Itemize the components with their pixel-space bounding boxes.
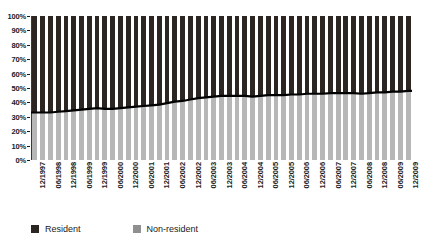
bar-segment-resident	[102, 16, 107, 109]
bar	[289, 16, 294, 160]
bar	[141, 16, 146, 160]
bar-segment-resident	[266, 16, 271, 95]
bar-segment-nonresident	[250, 97, 255, 160]
bar-segment-nonresident	[40, 112, 45, 160]
y-tick-mark	[27, 146, 30, 147]
bar-segment-nonresident	[79, 110, 84, 160]
bar	[211, 16, 216, 160]
bar	[157, 16, 162, 160]
bar-segment-resident	[172, 16, 177, 102]
bar	[312, 16, 317, 160]
y-tick-label: 10%	[12, 142, 26, 149]
x-tick-label: 06/2004	[240, 162, 249, 188]
bar	[48, 16, 53, 160]
x-tick-label: 12/2008	[380, 162, 389, 188]
bar-segment-nonresident	[110, 109, 115, 160]
y-tick-label: 0%	[16, 157, 26, 164]
bar	[375, 16, 380, 160]
bar	[118, 16, 123, 160]
bar	[87, 16, 92, 160]
bar-segment-nonresident	[64, 111, 69, 160]
bar	[320, 16, 325, 160]
y-tick-mark	[27, 160, 30, 161]
bar-segment-resident	[382, 16, 387, 92]
y-tick-label: 40%	[12, 99, 26, 106]
bar-segment-nonresident	[188, 100, 193, 160]
legend-label-nonresident: Non-resident	[147, 224, 199, 234]
bar-segment-nonresident	[204, 97, 209, 160]
bar-segment-resident	[188, 16, 193, 100]
bar-segment-resident	[235, 16, 240, 96]
bar-segment-resident	[320, 16, 325, 94]
bar-segment-resident	[274, 16, 279, 95]
bar-segment-resident	[406, 16, 411, 91]
bar	[188, 16, 193, 160]
bar	[196, 16, 201, 160]
bar	[32, 16, 37, 160]
bar-segment-nonresident	[351, 93, 356, 160]
bar-segment-resident	[95, 16, 100, 108]
bar-segment-nonresident	[102, 109, 107, 160]
bar-segment-nonresident	[196, 98, 201, 160]
bar	[266, 16, 271, 160]
bar-segment-resident	[165, 16, 170, 103]
bar-segment-resident	[336, 16, 341, 93]
bar-segment-nonresident	[211, 97, 216, 160]
bar	[242, 16, 247, 160]
bar	[79, 16, 84, 160]
plot-area	[31, 16, 412, 160]
bar	[367, 16, 372, 160]
x-tick-label: 12/2004	[256, 162, 265, 188]
bar	[406, 16, 411, 160]
x-tick-label: 12/2001	[162, 162, 171, 188]
x-tick-label: 06/2007	[334, 162, 343, 188]
bar-segment-resident	[328, 16, 333, 93]
bar	[40, 16, 45, 160]
bar	[274, 16, 279, 160]
bar-segment-resident	[305, 16, 310, 94]
bar-segment-nonresident	[32, 112, 37, 160]
bar-segment-resident	[180, 16, 185, 101]
bar-segment-nonresident	[297, 94, 302, 160]
bar	[305, 16, 310, 160]
bar-segment-nonresident	[71, 110, 76, 160]
bar	[258, 16, 263, 160]
x-tick-label: 06/2000	[116, 162, 125, 188]
y-tick-mark	[27, 131, 30, 132]
x-tick-label: 06/2002	[178, 162, 187, 188]
y-tick-label: 70%	[12, 56, 26, 63]
bar-segment-resident	[110, 16, 115, 109]
bar	[110, 16, 115, 160]
x-axis: 12/199706/199812/199806/199912/199906/20…	[31, 160, 412, 216]
x-tick-label: 12/1997	[38, 162, 47, 188]
bar-segment-nonresident	[274, 95, 279, 160]
bar-segment-resident	[118, 16, 123, 108]
bar-segment-resident	[227, 16, 232, 96]
bar-segment-nonresident	[343, 93, 348, 160]
bar-segment-resident	[343, 16, 348, 93]
y-tick-mark	[27, 74, 30, 75]
x-tick-label: 06/1999	[85, 162, 94, 188]
x-tick-label: 12/2000	[131, 162, 140, 188]
bar-segment-nonresident	[359, 94, 364, 160]
bar	[56, 16, 61, 160]
y-tick-label: 20%	[12, 128, 26, 135]
y-tick-mark	[27, 45, 30, 46]
bar-segment-nonresident	[56, 112, 61, 160]
bar-segment-resident	[211, 16, 216, 97]
x-tick-label: 12/1999	[100, 162, 109, 188]
bar-segment-nonresident	[95, 108, 100, 160]
bar-segment-nonresident	[235, 96, 240, 160]
bar-segment-nonresident	[242, 96, 247, 160]
x-tick-label: 12/2003	[225, 162, 234, 188]
bar	[149, 16, 154, 160]
bar-segment-resident	[312, 16, 317, 94]
bar	[390, 16, 395, 160]
y-tick-mark	[27, 117, 30, 118]
bar-segment-nonresident	[289, 94, 294, 160]
bar	[250, 16, 255, 160]
nonresident-swatch-icon	[133, 225, 141, 233]
legend-label-resident: Resident	[45, 224, 81, 234]
y-axis: 0%10%20%30%40%50%60%70%80%90%100%	[0, 10, 30, 162]
bar-segment-resident	[126, 16, 131, 107]
